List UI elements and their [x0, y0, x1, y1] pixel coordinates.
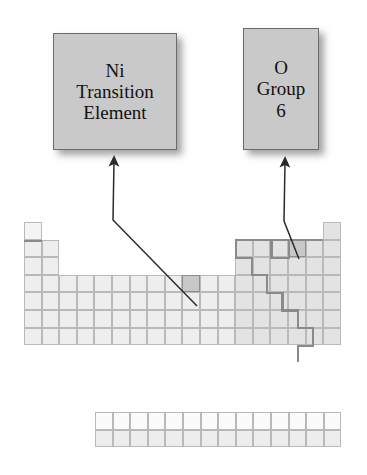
- callout-nickel-line-1: Ni: [106, 60, 125, 81]
- callout-nickel[interactable]: Ni Transition Element: [53, 33, 177, 150]
- callout-nickel-line-3: Element: [83, 102, 146, 123]
- callout-oxygen-line-3: 6: [276, 100, 286, 121]
- callout-oxygen[interactable]: O Group 6: [243, 28, 319, 150]
- o-leader: [284, 162, 299, 259]
- callout-oxygen-line-2: Group: [257, 78, 306, 99]
- figure-canvas: Ni Transition Element O Group 6: [0, 0, 367, 475]
- callout-oxygen-line-1: O: [274, 57, 288, 78]
- ni-leader: [113, 161, 197, 306]
- callout-nickel-line-2: Transition: [76, 81, 153, 102]
